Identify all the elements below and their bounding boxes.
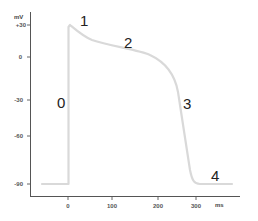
y-tick-label: +30 xyxy=(16,22,27,28)
x-tick-label: 200 xyxy=(153,203,164,209)
y-tick-label: 0 xyxy=(19,54,23,60)
phase-label-0: 0 xyxy=(57,94,65,111)
phase-label-1: 1 xyxy=(80,12,88,29)
x-ticks: 0 100 200 300 ms xyxy=(66,197,224,209)
x-tick-label: 0 xyxy=(66,203,70,209)
action-potential-chart: mV +30 0 -30 -60 -90 0 100 200 300 ms 0 … xyxy=(0,0,258,221)
x-tick-label: 300 xyxy=(191,203,202,209)
x-tick-label: 100 xyxy=(107,203,118,209)
phase-label-2: 2 xyxy=(124,34,132,51)
y-ticks: mV +30 0 -30 -60 -90 xyxy=(14,14,30,187)
y-tick-label: -60 xyxy=(14,133,23,139)
x-unit-label: ms xyxy=(215,202,224,208)
y-tick-label: -90 xyxy=(14,181,23,187)
y-unit-label: mV xyxy=(14,14,23,20)
phase-label-3: 3 xyxy=(183,95,191,112)
phase-label-4: 4 xyxy=(211,167,219,184)
y-tick-label: -30 xyxy=(14,97,23,103)
action-potential-curve xyxy=(42,25,232,184)
